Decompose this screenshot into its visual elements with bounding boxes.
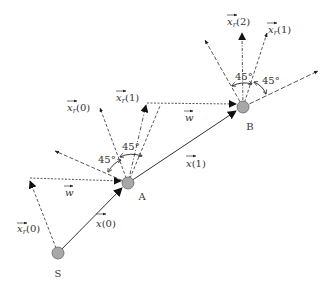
vector-diagram: S A B xr(0) x(0) w xr(0) xr(1) w x(1) xr… [0, 0, 330, 292]
label-x0: x(0) [96, 214, 116, 229]
label-xr1-A: xr(1) [116, 91, 139, 105]
vector-xr1-B [243, 33, 267, 107]
vector-xr2-B [242, 33, 243, 107]
svg-text:x(0): x(0) [96, 218, 116, 229]
node-B [237, 101, 249, 113]
svg-text:xr(0): xr(0) [17, 223, 40, 236]
svg-text:xr(1): xr(1) [116, 92, 139, 105]
angle-arc-B-left [232, 83, 252, 86]
label-w-lower: w [64, 186, 74, 198]
angle-label-A-top: 45° [122, 141, 140, 152]
vector-xr0-S [30, 181, 58, 253]
vector-A-left [55, 151, 128, 183]
svg-text:x(1): x(1) [186, 158, 206, 169]
vector-B-ext [243, 71, 318, 107]
node-label-A: A [137, 191, 146, 202]
label-xr1-B: xr(1) [267, 23, 291, 37]
node-A [122, 177, 134, 189]
node-label-S: S [55, 268, 62, 279]
svg-text:xr(1): xr(1) [268, 24, 291, 37]
node-S [52, 247, 64, 259]
label-w-upper: w [184, 111, 194, 123]
angle-label-B-left: 45° [235, 71, 253, 82]
vector-w-upper [147, 103, 236, 104]
svg-text:xr(0): xr(0) [67, 102, 90, 115]
label-xr0-A: xr(0) [67, 101, 90, 115]
svg-text:w: w [65, 187, 74, 198]
node-label-B: B [246, 121, 253, 132]
vector-w-lower [30, 178, 121, 181]
svg-text:w: w [185, 112, 194, 123]
label-x1: x(1) [186, 156, 206, 169]
label-xr0-S: xr(0) [17, 223, 40, 236]
angle-arc-A-top [120, 154, 142, 157]
svg-text:xr(2): xr(2) [227, 16, 250, 29]
vector-x1 [128, 111, 236, 183]
label-xr2-B: xr(2) [227, 15, 250, 29]
angle-label-B-right: 45° [262, 75, 280, 86]
angle-label-A-left: 45° [98, 154, 116, 165]
